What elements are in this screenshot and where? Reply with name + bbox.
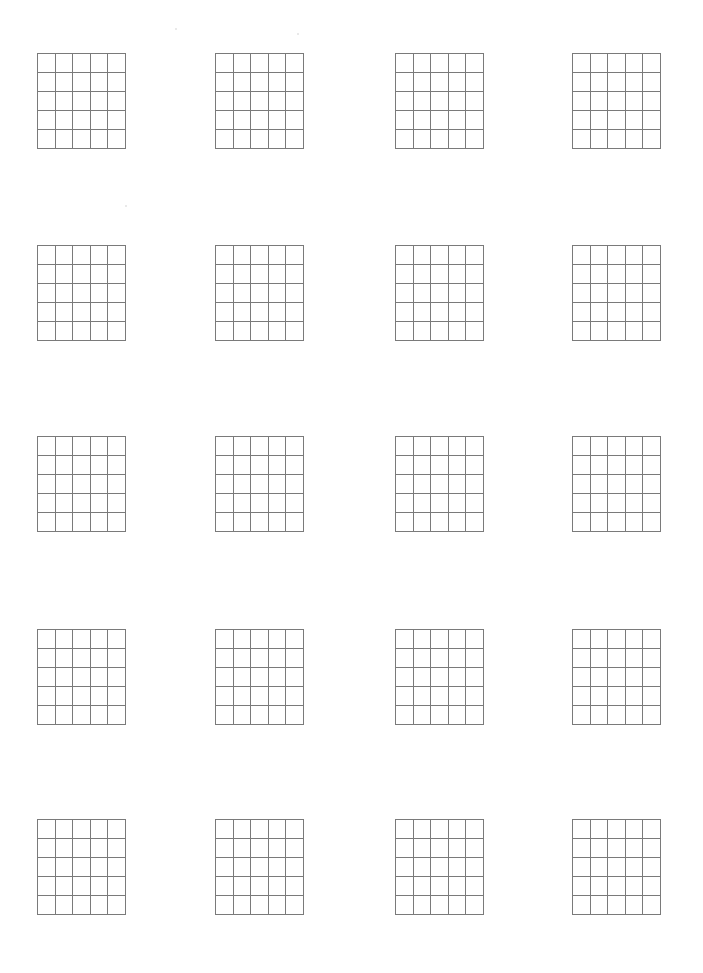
- grid-cell: [465, 91, 483, 110]
- grid-cell: [233, 321, 251, 340]
- grid-cell: [268, 321, 286, 340]
- grid-cell: [625, 321, 643, 340]
- grid-cell: [448, 321, 466, 340]
- grid-cell: [107, 455, 125, 474]
- grid-cell: [448, 474, 466, 493]
- grid-cell: [250, 53, 268, 72]
- grid-cell: [572, 110, 590, 129]
- grid-cell: [37, 321, 55, 340]
- grid-cell: [448, 705, 466, 724]
- grid-cell: [268, 876, 286, 895]
- grid-cell: [37, 895, 55, 914]
- grid-cell: [37, 264, 55, 283]
- grid-cell: [107, 283, 125, 302]
- grid-cell: [590, 110, 608, 129]
- grid-cell: [233, 493, 251, 512]
- grid-cell: [268, 53, 286, 72]
- grid-cell: [215, 629, 233, 648]
- grid-cell: [395, 455, 413, 474]
- grid-cell: [625, 512, 643, 531]
- grid-cell: [55, 264, 73, 283]
- grid-cell: [90, 686, 108, 705]
- grid-cell: [37, 493, 55, 512]
- grid-cell: [572, 686, 590, 705]
- grid-cell: [90, 302, 108, 321]
- grid-cell: [37, 857, 55, 876]
- grid-cell: [37, 91, 55, 110]
- grid-cell: [448, 838, 466, 857]
- grid-cell: [625, 72, 643, 91]
- paper-speck: [125, 205, 127, 207]
- grid-cell: [607, 129, 625, 148]
- grid-cell: [625, 91, 643, 110]
- grid-cell: [107, 876, 125, 895]
- grid-cell: [465, 264, 483, 283]
- grid-r3-c3: [395, 436, 484, 532]
- grid-cell: [55, 110, 73, 129]
- grid-cell: [448, 245, 466, 264]
- grid-cell: [90, 455, 108, 474]
- grid-cell: [107, 629, 125, 648]
- grid-cell: [250, 283, 268, 302]
- grid-r2-c4: [572, 245, 661, 341]
- grid-cell: [465, 629, 483, 648]
- grid-cell: [90, 91, 108, 110]
- grid-cell: [250, 895, 268, 914]
- grid-cell: [395, 629, 413, 648]
- grid-cell: [250, 436, 268, 455]
- grid-cell: [250, 72, 268, 91]
- grid-cell: [37, 648, 55, 667]
- grid-cell: [413, 474, 431, 493]
- grid-cell: [395, 436, 413, 455]
- grid-cell: [642, 838, 660, 857]
- grid-cell: [625, 819, 643, 838]
- grid-cell: [465, 53, 483, 72]
- grid-cell: [625, 436, 643, 455]
- grid-cell: [37, 245, 55, 264]
- grid-cell: [448, 436, 466, 455]
- grid-cell: [107, 819, 125, 838]
- grid-cell: [395, 245, 413, 264]
- grid-cell: [607, 53, 625, 72]
- grid-cell: [590, 321, 608, 340]
- grid-cell: [413, 72, 431, 91]
- grid-cell: [250, 629, 268, 648]
- grid-cell: [590, 648, 608, 667]
- grid-cell: [642, 667, 660, 686]
- grid-cell: [250, 245, 268, 264]
- grid-cell: [413, 129, 431, 148]
- grid-cell: [465, 72, 483, 91]
- grid-cell: [572, 648, 590, 667]
- grid-cell: [625, 264, 643, 283]
- grid-cell: [90, 436, 108, 455]
- grid-cell: [268, 857, 286, 876]
- grid-cell: [413, 53, 431, 72]
- grid-cell: [413, 686, 431, 705]
- grid-cell: [448, 686, 466, 705]
- grid-cell: [285, 512, 303, 531]
- grid-cell: [215, 91, 233, 110]
- grid-cell: [37, 436, 55, 455]
- grid-cell: [572, 72, 590, 91]
- grid-cell: [285, 667, 303, 686]
- grid-cell: [215, 110, 233, 129]
- grid-cell: [215, 838, 233, 857]
- grid-cell: [395, 110, 413, 129]
- grid-cell: [430, 455, 448, 474]
- grid-r4-c3: [395, 629, 484, 725]
- grid-cell: [72, 455, 90, 474]
- grid-cell: [590, 245, 608, 264]
- grid-r5-c4: [572, 819, 661, 915]
- grid-cell: [413, 895, 431, 914]
- grid-cell: [250, 648, 268, 667]
- grid-cell: [90, 264, 108, 283]
- grid-cell: [107, 72, 125, 91]
- grid-cell: [465, 129, 483, 148]
- grid-cell: [55, 686, 73, 705]
- grid-cell: [642, 264, 660, 283]
- grid-cell: [285, 629, 303, 648]
- grid-r1-c2: [215, 53, 304, 149]
- grid-cell: [448, 110, 466, 129]
- grid-cell: [642, 705, 660, 724]
- grid-cell: [55, 819, 73, 838]
